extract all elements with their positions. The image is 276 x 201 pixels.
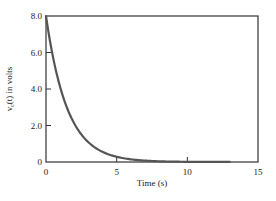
y-tick-label: 6.0 [31, 48, 43, 58]
x-tick-label: 15 [254, 167, 264, 177]
chart: 02.04.06.08.0 051015 Time (s) vc(t) in v… [0, 0, 276, 201]
y-axis-label: vc(t) in volts [4, 66, 15, 111]
x-tick-label: 0 [44, 167, 49, 177]
y-tick-label: 2.0 [31, 121, 43, 131]
y-tick-label: 0 [38, 157, 43, 167]
plot-frame [46, 16, 258, 162]
x-axis-label: Time (s) [137, 178, 167, 188]
x-tick-label: 10 [183, 167, 193, 177]
data-line-vc [46, 16, 230, 162]
y-tick-label: 8.0 [31, 11, 43, 21]
y-tick-label: 4.0 [31, 84, 43, 94]
x-tick-label: 5 [114, 167, 119, 177]
